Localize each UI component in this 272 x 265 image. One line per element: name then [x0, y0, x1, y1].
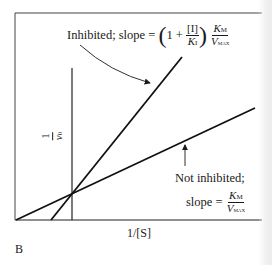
- vmax-subscript-2: max: [233, 206, 245, 214]
- x-axis-label: 1/[S]: [127, 227, 151, 239]
- vmax-subscript: max: [218, 39, 230, 47]
- close-paren: ): [199, 23, 207, 47]
- not-inhibited-slope: slope = KM Vmax: [186, 190, 246, 214]
- y-axis-fraction: 1 v0: [40, 131, 64, 141]
- inhibited-arrow-icon: [80, 45, 150, 83]
- inhibitor-fraction: [I] KI: [186, 23, 199, 47]
- km-vmax-fraction: KM Vmax: [210, 23, 230, 47]
- open-paren: (: [158, 23, 166, 47]
- not-inhibited-label: Not inhibited;: [175, 172, 245, 185]
- ki-symbol: K: [188, 35, 195, 47]
- v-symbol: v: [52, 135, 64, 140]
- v-subscript: 0: [56, 132, 64, 136]
- km-vmax-fraction-2: KM Vmax: [226, 190, 246, 214]
- y-axis-label: 1 v0: [40, 131, 64, 141]
- ki-subscript: I: [195, 39, 197, 47]
- one-plus: 1 +: [166, 29, 186, 42]
- vmax-symbol: V: [211, 35, 218, 47]
- inhibited-label: Inhibited; slope =: [67, 29, 158, 42]
- vmax-term-2: Vmax: [226, 203, 246, 215]
- km-symbol: K: [213, 22, 220, 34]
- ki-term: KI: [187, 36, 199, 48]
- y-denominator: v0: [53, 131, 65, 141]
- inhibited-annotation: Inhibited; slope = ( 1 + [I] KI ) KM Vma…: [67, 23, 230, 47]
- panel-label: B: [15, 243, 23, 255]
- slope-prefix: slope =: [186, 196, 226, 209]
- inhibited-line: [51, 57, 182, 220]
- page-edge-shadow: [258, 0, 272, 265]
- km-subscript: M: [221, 26, 227, 34]
- vmax-term: Vmax: [210, 36, 230, 48]
- km-subscript-2: M: [236, 193, 242, 201]
